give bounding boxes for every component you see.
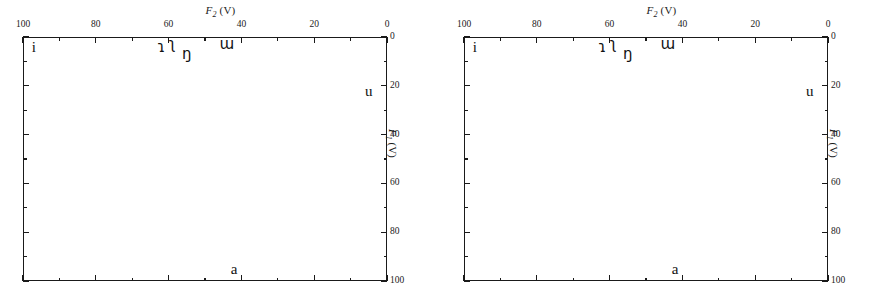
x-tick-major-bottom (682, 275, 683, 281)
x-tick-major (241, 37, 242, 43)
vowel-symbol-u: u (365, 83, 373, 98)
y-tick-major-left (464, 232, 470, 233)
vowel-symbol-i: i (473, 39, 477, 54)
x-axis-title: F2 (V) (0, 4, 441, 19)
x-tick-minor-bottom (350, 278, 351, 282)
x-tick-minor-bottom (277, 278, 278, 282)
y-tick-major-left (464, 134, 470, 135)
vowel-symbol-ʅ: ʅ (169, 37, 176, 52)
y-tick-major-left (23, 36, 29, 37)
vowel-symbol-ɯ: ɯ (220, 37, 235, 52)
x-tick-major-bottom (314, 275, 315, 281)
x-tick-major (463, 37, 464, 43)
x-tick-label: 20 (740, 19, 770, 29)
chart-panel-left: F2 (V)F1 (V)100806040200020406080100iɿʅŋ… (0, 0, 441, 304)
x-tick-major-bottom (609, 275, 610, 281)
x-tick-minor-bottom (791, 278, 792, 282)
x-tick-major-bottom (168, 275, 169, 281)
x-tick-major-bottom (241, 275, 242, 281)
y-tick-minor (825, 110, 829, 111)
x-tick-major-bottom (536, 275, 537, 281)
y-tick-major (822, 85, 828, 86)
x-tick-label: 20 (299, 19, 329, 29)
y-tick-major-left (464, 280, 470, 281)
y-tick-major-left (464, 85, 470, 86)
y-tick-label: 20 (390, 80, 400, 90)
y-tick-major (381, 280, 387, 281)
y-tick-minor-left (23, 61, 27, 62)
x-tick-major (755, 37, 756, 43)
y-tick-label: 60 (831, 177, 841, 187)
vowel-symbol-ɯ: ɯ (661, 37, 676, 52)
x-tick-major (682, 37, 683, 43)
x-tick-major (386, 37, 387, 43)
y-tick-label: 20 (831, 80, 841, 90)
vowel-symbol-i: i (32, 39, 36, 54)
x-tick-minor-bottom (500, 278, 501, 282)
y-tick-major-left (464, 183, 470, 184)
y-tick-label: 100 (390, 275, 404, 285)
plot-frame (464, 37, 828, 281)
y-tick-minor-left (23, 207, 27, 208)
y-tick-major-left (23, 232, 29, 233)
x-tick-label: 60 (595, 19, 625, 29)
y-tick-minor-left (23, 110, 27, 111)
x-tick-minor (718, 37, 719, 41)
x-tick-label: 100 (449, 19, 479, 29)
x-tick-label: 100 (8, 19, 38, 29)
x-tick-minor (573, 37, 574, 41)
y-tick-label: 80 (831, 226, 841, 236)
x-tick-minor-bottom (573, 278, 574, 282)
y-tick-major (822, 280, 828, 281)
y-tick-major (822, 36, 828, 37)
vowel-symbol-ŋ: ŋ (182, 47, 192, 62)
x-tick-label: 0 (372, 19, 402, 29)
y-tick-minor (384, 207, 388, 208)
x-tick-major (827, 37, 828, 43)
y-tick-minor (384, 61, 388, 62)
x-tick-major-bottom (95, 275, 96, 281)
vowel-symbol-ɿ: ɿ (157, 39, 165, 54)
x-tick-minor (645, 37, 646, 41)
y-tick-minor (825, 256, 829, 257)
x-tick-label: 0 (813, 19, 843, 29)
y-tick-label: 0 (390, 31, 395, 41)
x-tick-major (95, 37, 96, 43)
x-tick-minor (791, 37, 792, 41)
vowel-symbol-ɿ: ɿ (598, 39, 606, 54)
x-axis-title: F2 (V) (441, 4, 882, 19)
x-tick-minor (132, 37, 133, 41)
y-tick-minor (384, 158, 388, 159)
vowel-formant-figure: F2 (V)F1 (V)100806040200020406080100iɿʅŋ… (0, 0, 883, 304)
x-tick-minor-bottom (132, 278, 133, 282)
y-tick-major (822, 183, 828, 184)
x-tick-minor-bottom (645, 278, 646, 282)
y-tick-major-left (23, 280, 29, 281)
y-tick-minor-left (464, 61, 468, 62)
x-tick-major (314, 37, 315, 43)
x-tick-major-bottom (755, 275, 756, 281)
y-tick-minor-left (464, 158, 468, 159)
y-tick-label: 60 (390, 177, 400, 187)
x-tick-label: 80 (522, 19, 552, 29)
y-tick-label: 100 (831, 275, 845, 285)
x-tick-minor (59, 37, 60, 41)
y-tick-minor-left (464, 110, 468, 111)
x-tick-label: 40 (226, 19, 256, 29)
x-tick-minor-bottom (59, 278, 60, 282)
y-tick-minor-left (464, 207, 468, 208)
x-tick-major (536, 37, 537, 43)
y-tick-major-left (23, 183, 29, 184)
y-tick-major (381, 85, 387, 86)
y-tick-label: 0 (831, 31, 836, 41)
y-tick-major (381, 134, 387, 135)
y-tick-major (822, 232, 828, 233)
y-tick-label: 40 (831, 129, 841, 139)
y-tick-minor (825, 207, 829, 208)
x-tick-minor (204, 37, 205, 41)
x-tick-label: 60 (154, 19, 184, 29)
y-tick-minor (384, 110, 388, 111)
y-tick-major (381, 232, 387, 233)
y-tick-minor (825, 61, 829, 62)
y-tick-label: 40 (390, 129, 400, 139)
